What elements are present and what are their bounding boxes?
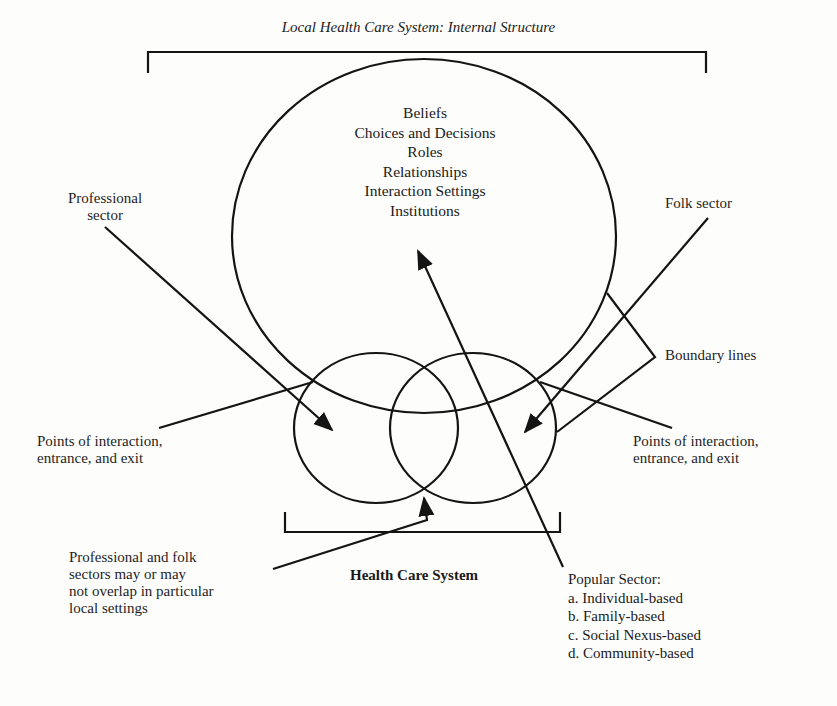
popular-sector-item: b. Family-based: [568, 607, 701, 626]
health-care-system-label: Health Care System: [350, 567, 478, 584]
popular-sector-item: a. Individual-based: [568, 589, 701, 608]
central-element: Choices and Decisions: [300, 123, 550, 143]
central-element: Relationships: [300, 162, 550, 182]
overlap-note-line: not overlap in particular: [69, 583, 214, 600]
central-element: Interaction Settings: [300, 181, 550, 201]
points-right-label: Points of interaction, entrance, and exi…: [633, 433, 758, 467]
professional-sector-circle: [294, 353, 458, 503]
points-left-label-line: entrance, and exit: [37, 450, 162, 467]
diagram-title: Local Health Care System: Internal Struc…: [0, 19, 837, 36]
points-left-label-line: Points of interaction,: [37, 433, 162, 450]
boundary-lines-pointer: [557, 293, 655, 432]
overlap-note-line: Professional and folk: [69, 549, 214, 566]
folk-sector-label: Folk sector: [665, 195, 732, 212]
professional-sector-label: Professional sector: [68, 190, 142, 224]
points-left-label: Points of interaction, entrance, and exi…: [37, 433, 162, 467]
points-right-label-line: Points of interaction,: [633, 433, 758, 450]
professional-sector-label-line: sector: [68, 207, 142, 224]
central-elements-list: Beliefs Choices and Decisions Roles Rela…: [300, 103, 550, 220]
points-right-label-line: entrance, and exit: [633, 450, 758, 467]
central-element: Beliefs: [300, 103, 550, 123]
central-element: Institutions: [300, 201, 550, 221]
folk-sector-circle: [390, 353, 556, 503]
professional-sector-label-line: Professional: [68, 190, 142, 207]
popular-sector-arrow: [418, 251, 563, 567]
overlap-note-line: sectors may or may: [69, 566, 214, 583]
professional-sector-arrow: [105, 227, 332, 430]
central-element: Roles: [300, 142, 550, 162]
popular-sector-item: c. Social Nexus-based: [568, 626, 701, 645]
boundary-lines-label: Boundary lines: [665, 347, 756, 364]
popular-sector-heading: Popular Sector:: [568, 570, 701, 589]
top-bracket: [148, 52, 706, 73]
overlap-note-label: Professional and folk sectors may or may…: [69, 549, 214, 617]
popular-sector-list: Popular Sector: a. Individual-based b. F…: [568, 570, 701, 663]
popular-sector-item: d. Community-based: [568, 644, 701, 663]
points-right-pointer: [540, 382, 672, 428]
overlap-arrow: [273, 498, 427, 569]
points-left-pointer: [159, 382, 313, 428]
overlap-note-line: local settings: [69, 600, 214, 617]
